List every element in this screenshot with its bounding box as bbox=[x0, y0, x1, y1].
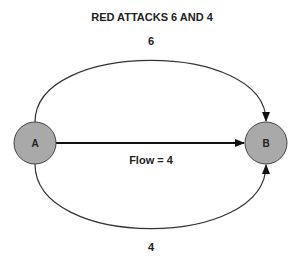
node-a-label: A bbox=[31, 138, 38, 149]
node-b-label: B bbox=[262, 138, 269, 149]
edge-top-arc bbox=[35, 60, 266, 122]
edge-label-flow: Flow = 4 bbox=[129, 154, 174, 166]
diagram-title: RED ATTACKS 6 AND 4 bbox=[91, 11, 214, 23]
edge-bottom-arc bbox=[35, 164, 266, 229]
edge-label-bottom: 4 bbox=[148, 241, 155, 253]
edge-label-top: 6 bbox=[148, 35, 154, 47]
flow-diagram: RED ATTACKS 6 AND 4 6 Flow = 4 4 A B bbox=[0, 0, 304, 267]
